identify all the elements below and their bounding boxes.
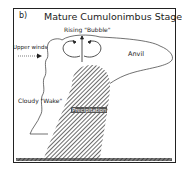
rising-bubble-arrows-icon bbox=[63, 36, 101, 62]
diagram-title: Mature Cumulonimbus Stage bbox=[44, 11, 182, 22]
ground bbox=[16, 158, 172, 161]
anvil-label: Anvil bbox=[128, 50, 144, 58]
upper-winds-arrow-icon bbox=[18, 54, 42, 59]
upper-winds-label: Upper winds bbox=[13, 44, 47, 50]
panel-label: b) bbox=[19, 11, 27, 20]
cloudy-wake-label: Cloudy "Wake" bbox=[18, 97, 62, 104]
rising-bubble-label: Rising "Bubble" bbox=[64, 26, 111, 33]
precipitation-label: Precipitation bbox=[71, 107, 107, 113]
